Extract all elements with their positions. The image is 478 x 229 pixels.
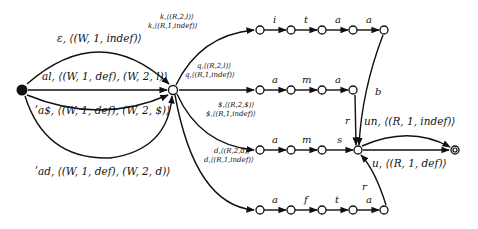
edge-row2-merge: [355, 95, 356, 145]
label-final-u: u, ⟨(R, 1, def)⟩: [372, 157, 447, 169]
label-epsilon: ε, ⟨(W, 1, indef)⟩: [57, 32, 142, 44]
label-q-2: q,⟨(R,1,indef)⟩: [185, 71, 235, 79]
label-row1-t: t: [304, 14, 309, 25]
label-row2-a2: a: [335, 74, 341, 85]
final-state: [451, 146, 459, 154]
label-al: al, ⟨(W, 1, def), (W, 2, l)⟩: [42, 70, 168, 82]
label-d-2: d,⟨(R,1,indef)⟩: [204, 156, 254, 164]
label-dollar-1: $,⟨(R,2,$)⟩: [218, 101, 254, 109]
label-row3-a: a: [272, 134, 278, 145]
label-merge-b: b: [375, 86, 381, 97]
label-row1-a2: a: [366, 14, 372, 25]
label-row4-f: f: [303, 194, 310, 205]
label-row1-a1: a: [335, 14, 341, 25]
label-a-dollar: ʹa$, ⟨(W, 1, def), (W, 2, $)⟩: [35, 104, 170, 116]
label-ad: ʹad, ⟨(W, 1, def), (W, 2, d)⟩: [35, 165, 170, 177]
label-row1-i: i: [273, 14, 276, 25]
label-row4-a2: a: [366, 194, 372, 205]
label-row2-m: m: [302, 74, 311, 85]
label-q-1: q,⟨(R,2,l)⟩: [197, 62, 231, 70]
label-merge-r-bottom: r: [362, 181, 368, 192]
label-merge-r-top: r: [345, 115, 351, 126]
label-row4-t: t: [335, 194, 340, 205]
start-state: [17, 85, 28, 96]
edge-final-upper: [362, 136, 450, 147]
label-final-un: un, ⟨(R, 1, indef)⟩: [364, 115, 455, 127]
label-k-2: k,⟨(R,1,indef)⟩: [148, 22, 198, 30]
label-d-1: d,⟨(R,2,d)⟩: [214, 147, 251, 155]
hub-state: [169, 86, 178, 95]
label-row3-s: s: [337, 134, 342, 145]
label-row2-a1: a: [272, 74, 278, 85]
label-k-1: k,⟨(R,2,l)⟩: [160, 13, 194, 21]
label-row3-m: m: [302, 134, 311, 145]
label-row4-a1: a: [272, 194, 278, 205]
label-dollar-2: $,⟨(R,1,indef)⟩: [206, 110, 256, 118]
automaton-diagram: ε, ⟨(W, 1, indef)⟩ al, ⟨(W, 1, def), (W,…: [0, 0, 478, 229]
